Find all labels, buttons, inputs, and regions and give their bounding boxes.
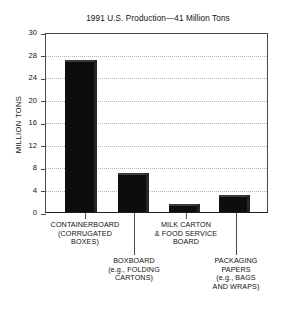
bar-side-edge [146, 173, 149, 212]
y-axis-tick-label: 4 [13, 187, 37, 195]
category-label-milk-carton-food-service-board: MILK CARTON& FOOD SERVICEBOARD [140, 221, 232, 247]
bar-side-edge [197, 204, 200, 212]
bar-chart-figure: 1991 U.S. Production—41 Million Tons MIL… [0, 0, 286, 315]
category-label-line: CARTONS) [91, 274, 177, 283]
y-axis-tick-label: 16 [13, 119, 37, 127]
y-axis-tick-label: 12 [13, 142, 37, 150]
y-axis-tick [41, 101, 46, 102]
category-label-containerboard: CONTAINERBOARD(CORRUGATEDBOXES) [37, 221, 133, 247]
leader-line-boxboard [134, 213, 135, 255]
y-axis-tick-label: 24 [13, 74, 37, 82]
y-axis-tick-label: 0 [13, 209, 37, 217]
y-axis-tick-label: 8 [13, 164, 37, 172]
y-axis-tick [41, 79, 46, 80]
y-axis-tick [41, 146, 46, 147]
bar-milk-carton-food-service-board [169, 204, 200, 212]
category-label-line: BOARD [140, 238, 232, 247]
leader-line-milk-carton-food-service-board [186, 213, 187, 219]
leader-line-containerboard [85, 213, 86, 219]
plot-area [45, 33, 268, 213]
y-axis-tick [41, 124, 46, 125]
chart-title: 1991 U.S. Production—41 Million Tons [44, 14, 272, 23]
y-axis-tick [41, 214, 46, 215]
bar-side-edge [247, 195, 250, 212]
bar-boxboard [118, 173, 149, 212]
bar-top-edge [219, 195, 250, 197]
y-axis-tick-label: 20 [13, 97, 37, 105]
bar-packaging-papers [219, 195, 250, 212]
category-label-boxboard: BOXBOARD(e.g., FOLDINGCARTONS) [91, 257, 177, 283]
y-axis-tick [41, 191, 46, 192]
category-label-line: BOXES) [37, 238, 133, 247]
leader-line-packaging-papers [236, 213, 237, 255]
category-label-line: AND WRAPS) [193, 283, 279, 292]
y-axis-tick [41, 169, 46, 170]
bar-side-edge [94, 60, 97, 212]
gridline [46, 56, 267, 57]
y-axis-tick [41, 34, 46, 35]
category-label-packaging-papers: PACKAGINGPAPERS(e.g., BAGSAND WRAPS) [193, 257, 279, 291]
bar-containerboard [65, 60, 97, 212]
bar-top-edge [169, 204, 200, 206]
y-axis-tick-label: 28 [13, 52, 37, 60]
y-axis-tick-label: 30 [13, 29, 37, 37]
bar-top-edge [65, 60, 97, 62]
y-axis-tick [41, 56, 46, 57]
bar-top-edge [118, 173, 149, 175]
